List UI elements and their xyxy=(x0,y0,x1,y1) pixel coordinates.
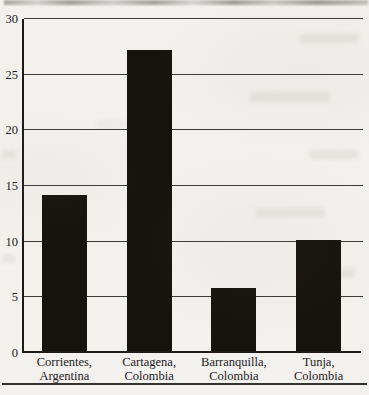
y-tick-label-10: 10 xyxy=(0,235,18,248)
gridline-y-15 xyxy=(24,185,363,186)
gridline-y-20 xyxy=(24,129,363,130)
gridline-y-30 xyxy=(24,18,363,19)
y-tick-label-25: 25 xyxy=(0,68,18,81)
scan-smudge xyxy=(2,150,16,159)
y-tick-label-20: 20 xyxy=(0,124,18,137)
bar-chart-plot-area xyxy=(22,19,361,353)
gridline-y-25 xyxy=(24,74,363,75)
scanned-page: 051015202530 Corrientes,ArgentinaCartage… xyxy=(0,0,369,395)
y-tick-label-15: 15 xyxy=(0,180,18,193)
x-category-label-line: Colombia xyxy=(269,370,369,384)
y-tick-label-30: 30 xyxy=(0,13,18,26)
bar-2 xyxy=(127,50,172,351)
scan-cutoff-smudge xyxy=(4,0,368,5)
page-divider-rule xyxy=(2,383,367,385)
bar-3 xyxy=(211,288,256,351)
scan-smudge xyxy=(2,255,15,263)
x-category-label-line: Tunja, xyxy=(269,356,369,370)
y-tick-label-5: 5 xyxy=(0,291,18,304)
x-category-label-4: Tunja,Colombia xyxy=(269,356,369,383)
bar-4 xyxy=(296,240,341,351)
bar-1 xyxy=(42,195,87,351)
